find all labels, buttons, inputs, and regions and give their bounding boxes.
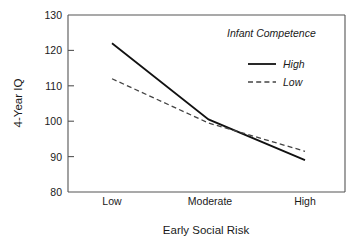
x-tick-label-low: Low [102,195,122,207]
line-chart: 130 120 110 100 90 80 Low Moderate High … [0,0,358,246]
series-line-low [112,79,305,152]
legend-label-low: Low [283,76,304,88]
plot-frame [68,15,345,192]
legend-title: Infant Competence [227,27,316,39]
y-tick-label-120: 120 [44,44,62,56]
chart-figure: 130 120 110 100 90 80 Low Moderate High … [0,0,358,246]
y-axis-ticks [68,50,74,156]
y-axis-tick-labels: 130 120 110 100 90 80 [44,9,62,198]
x-tick-label-moderate: Moderate [188,195,233,207]
y-tick-label-130: 130 [44,9,62,21]
y-tick-label-110: 110 [45,80,62,92]
y-tick-label-90: 90 [50,151,62,163]
y-tick-label-80: 80 [50,186,62,198]
y-axis-title: 4-Year IQ [12,79,24,128]
x-axis-title: Early Social Risk [163,224,250,236]
legend-label-high: High [283,58,305,70]
x-axis-tick-labels: Low Moderate High [102,195,316,207]
y-tick-label-100: 100 [44,115,62,127]
x-tick-label-high: High [294,195,316,207]
legend: Infant Competence High Low [227,27,316,88]
